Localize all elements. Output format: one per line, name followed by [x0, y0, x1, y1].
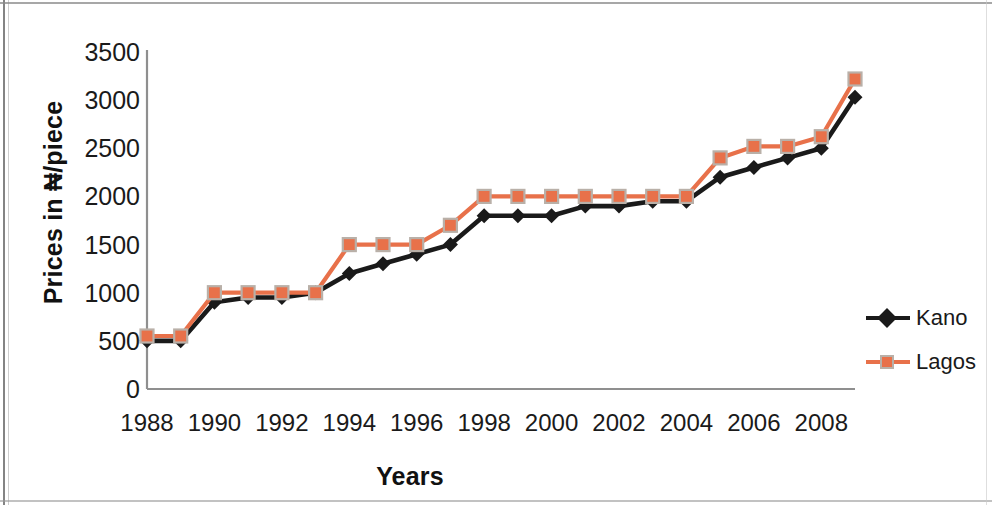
- x-tick-label: 2004: [660, 409, 713, 437]
- data-point-marker: [511, 190, 524, 203]
- x-tick-label: 2008: [795, 409, 848, 437]
- y-tick-label: 500: [60, 326, 140, 355]
- line-chart: Prices in ₦/piece Years 0500100015002000…: [0, 0, 992, 505]
- data-point-marker: [849, 73, 862, 86]
- y-tick-label: 1500: [60, 230, 140, 259]
- data-point-marker: [613, 190, 626, 203]
- data-point-marker: [343, 238, 356, 251]
- chart-legend: Kano Lagos: [866, 296, 986, 384]
- data-point-marker: [815, 130, 828, 143]
- y-tick-label: 2000: [60, 182, 140, 211]
- data-point-marker: [377, 238, 390, 251]
- x-tick-label: 2000: [525, 409, 578, 437]
- kano-legend-swatch: [866, 308, 910, 328]
- y-tick-label: 2500: [60, 134, 140, 163]
- x-tick-label: 1990: [188, 409, 241, 437]
- data-point-marker: [579, 190, 592, 203]
- data-point-marker: [646, 190, 659, 203]
- data-point-marker: [781, 140, 794, 153]
- data-point-marker: [309, 286, 322, 299]
- data-point-marker: [680, 190, 693, 203]
- diamond-marker-icon: [877, 308, 897, 328]
- x-tick-label: 1994: [323, 409, 376, 437]
- legend-label-kano: Kano: [916, 305, 967, 331]
- data-point-marker: [544, 208, 559, 223]
- data-point-marker: [242, 286, 255, 299]
- data-point-marker: [208, 286, 221, 299]
- x-tick-label: 1988: [120, 409, 173, 437]
- legend-item-lagos: Lagos: [866, 340, 986, 384]
- x-tick-label: 2006: [727, 409, 780, 437]
- y-tick-label: 3000: [60, 86, 140, 115]
- data-point-marker: [510, 208, 525, 223]
- data-point-marker: [410, 238, 423, 251]
- x-tick-label: 1998: [457, 409, 510, 437]
- square-marker-icon: [880, 355, 894, 369]
- lagos-legend-swatch: [866, 352, 910, 372]
- data-point-marker: [376, 256, 391, 271]
- data-point-marker: [141, 330, 154, 343]
- data-point-marker: [174, 330, 187, 343]
- data-point-marker: [714, 151, 727, 164]
- axis-lines: [147, 50, 855, 389]
- data-point-marker: [444, 219, 457, 232]
- data-point-marker: [746, 160, 761, 175]
- data-point-marker: [478, 190, 491, 203]
- x-tick-label: 1992: [255, 409, 308, 437]
- series-kano: [140, 90, 863, 349]
- y-tick-label: 0: [60, 375, 140, 404]
- series-line-kano: [147, 97, 855, 341]
- series-layer: [140, 73, 863, 349]
- legend-label-lagos: Lagos: [916, 349, 976, 375]
- legend-item-kano: Kano: [866, 296, 986, 340]
- y-tick-label: 1000: [60, 278, 140, 307]
- y-tick-label: 3500: [60, 38, 140, 67]
- x-tick-label: 2002: [592, 409, 645, 437]
- data-point-marker: [545, 190, 558, 203]
- x-tick-label: 1996: [390, 409, 443, 437]
- data-point-marker: [747, 140, 760, 153]
- data-point-marker: [275, 286, 288, 299]
